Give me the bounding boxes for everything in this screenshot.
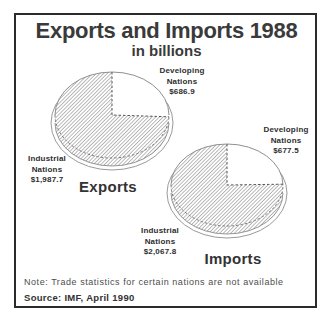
source-text: Source: IMF, April 1990 — [24, 292, 309, 303]
imports-caption: Imports — [183, 250, 283, 267]
chart-subtitle: in billions — [16, 42, 317, 59]
chart-title: Exports and Imports 1988 — [16, 18, 317, 44]
note-text: Note: Trade statistics for certain natio… — [24, 277, 309, 287]
imports-developing-label: Developing Nations $677.5 — [241, 125, 331, 157]
exports-developing-label: Developing Nations $686.9 — [137, 66, 227, 98]
exports-caption: Exports — [58, 178, 158, 195]
imports-pie — [167, 144, 287, 238]
